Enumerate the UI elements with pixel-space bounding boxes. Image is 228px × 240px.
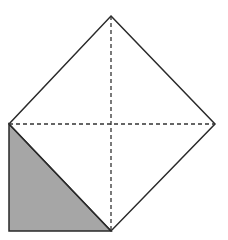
geometry-diagram: [0, 0, 228, 240]
